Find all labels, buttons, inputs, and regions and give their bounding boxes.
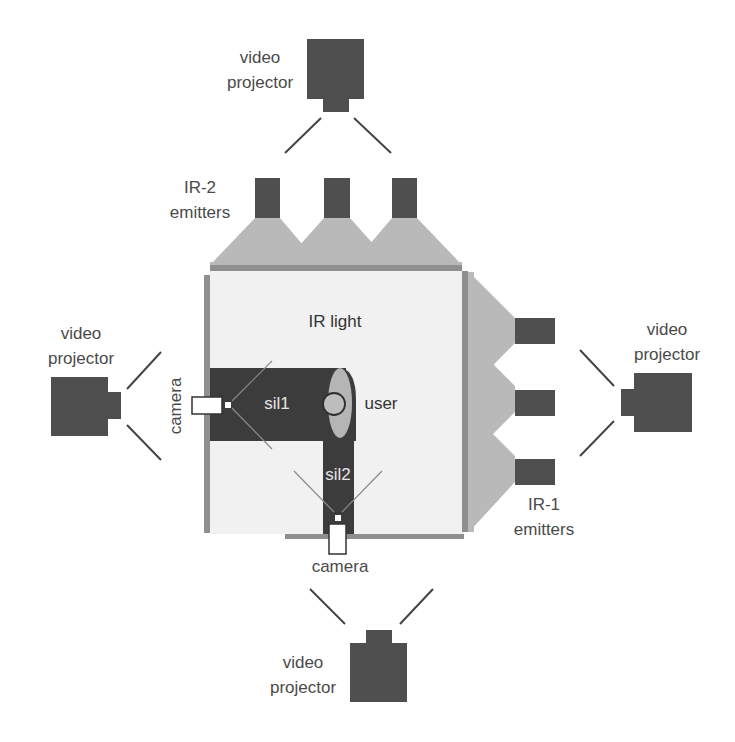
projector-bottom-label-line2: projector xyxy=(270,678,336,697)
diagram-canvas: video projector IR-2 emitters IR light v… xyxy=(0,0,735,742)
ir1-emitter-icon xyxy=(515,318,555,344)
ir1-light-cones xyxy=(466,272,515,532)
room-setup-diagram: video projector IR-2 emitters IR light v… xyxy=(0,0,735,742)
ir2-emitters xyxy=(255,178,417,218)
sil1-label: sil1 xyxy=(264,394,290,413)
ir1-emitter-icon xyxy=(515,459,555,485)
projector-left-label-line1: video xyxy=(61,324,102,343)
projector-top-label-line1: video xyxy=(240,48,281,67)
user-label: user xyxy=(364,394,397,413)
ir2-emitter-icon xyxy=(392,178,417,218)
projector-right-label-line1: video xyxy=(647,320,688,339)
camera-left-label: camera xyxy=(166,377,185,434)
ir2-label-line1: IR-2 xyxy=(184,178,216,197)
ir-light-label: IR light xyxy=(309,312,362,331)
ir2-label-line2: emitters xyxy=(170,203,230,222)
ir1-emitters xyxy=(515,318,555,485)
user-head xyxy=(323,393,345,415)
ir1-label-line2: emitters xyxy=(514,520,574,539)
projector-top-label-line2: projector xyxy=(227,73,293,92)
projector-right-icon xyxy=(580,350,692,456)
ir1-emitter-icon xyxy=(515,390,555,416)
top-wall xyxy=(210,265,462,271)
bottom-wall xyxy=(285,534,464,539)
right-wall xyxy=(462,271,468,532)
projector-top-icon xyxy=(285,39,391,153)
projector-left-icon xyxy=(51,352,161,460)
projector-right-label-line2: projector xyxy=(634,345,700,364)
projector-left-label-line2: projector xyxy=(48,349,114,368)
ir2-emitter-icon xyxy=(324,178,350,218)
ir2-emitter-icon xyxy=(255,178,280,218)
ir2-light-cones xyxy=(210,218,462,265)
sil2-label: sil2 xyxy=(325,465,351,484)
ir1-label-line1: IR-1 xyxy=(528,495,560,514)
projector-bottom-label-line1: video xyxy=(283,653,324,672)
camera-bottom-label: camera xyxy=(312,557,369,576)
